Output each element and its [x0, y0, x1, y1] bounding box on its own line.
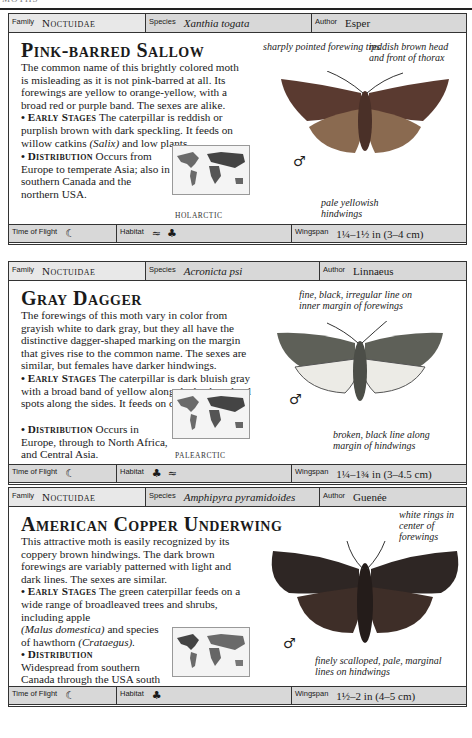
tree-icon: ♣	[152, 689, 162, 702]
running-head: MOTHS	[2, 0, 39, 4]
annotation-head-thorax: reddish brown head and front of thorax	[369, 41, 459, 63]
time-of-flight-label: Time of Flight	[12, 689, 57, 698]
species-cell: Species Xanthia togata	[146, 14, 312, 32]
author-cell: Author Guenée	[320, 488, 466, 506]
species-entry-american-copper-underwing: Family Noctuidae Species Amphipyra pyram…	[8, 487, 467, 707]
early-stages-italic-2: (Crataegus).	[78, 636, 135, 648]
species-description: The common name of this brightly colored…	[21, 61, 249, 149]
author-cell: Author Esper	[312, 14, 466, 32]
family-value: Noctuidae	[42, 491, 95, 503]
family-value: Noctuidae	[42, 265, 95, 277]
distribution-label: Distribution	[28, 648, 93, 660]
author-cell: Author Linnaeus	[320, 262, 466, 280]
annotation-hindwings: pale yellowish hindwings	[321, 197, 401, 219]
early-stages-label: Early Stages	[28, 585, 97, 597]
info-bar: Time of Flight ☾ Habitat ♣ Wingspan 1½–2…	[8, 686, 467, 705]
info-bar: Time of Flight ☾ Habitat ≈ ♣ Wingspan 1¼…	[8, 224, 467, 243]
species-title: Pink-barred Sallow	[21, 39, 204, 62]
family-label: Family	[12, 17, 34, 26]
species-label: Species	[149, 265, 176, 274]
habitat-cell: Habitat ♣ ≈	[117, 465, 292, 482]
family-label: Family	[12, 265, 34, 274]
tree-icon: ♣	[152, 467, 162, 480]
family-label: Family	[12, 491, 34, 500]
entry-body: Gray Dagger The forewings of this moth v…	[9, 281, 466, 465]
family-value: Noctuidae	[42, 17, 95, 29]
author-value: Linnaeus	[353, 265, 393, 277]
moon-icon: ☾	[65, 227, 75, 240]
tree-icon: ♣	[167, 227, 177, 240]
author-value: Guenée	[353, 491, 387, 503]
habitat-cell: Habitat ♣	[117, 687, 292, 704]
early-stages-label: Early Stages	[28, 372, 97, 384]
wingspan-value: 1¼–1¾ in (3–4.5 cm)	[336, 468, 431, 480]
male-symbol: ♂	[283, 635, 296, 651]
habitat-cell: Habitat ≈ ♣	[117, 225, 292, 242]
grassland-icon: ≈	[168, 467, 177, 480]
habitat-label: Habitat	[120, 689, 144, 698]
wingspan-label: Wingspan	[295, 227, 328, 236]
author-label: Author	[315, 17, 337, 26]
wingspan-cell: Wingspan 1¼–1½ in (3–4 cm)	[292, 225, 466, 242]
annotation-hindwing-line: broken, black line along margin of hindw…	[333, 429, 443, 451]
family-cell: Family Noctuidae	[9, 488, 146, 506]
species-title: Gray Dagger	[21, 287, 142, 310]
species-description: This attractive moth is easily recognize…	[21, 535, 253, 623]
wingspan-cell: Wingspan 1½–2 in (4–5 cm)	[292, 687, 466, 704]
early-stages-label: Early Stages	[28, 111, 97, 123]
annotation-forewing-line: fine, black, irregular line on inner mar…	[299, 289, 429, 311]
world-map-image	[172, 389, 250, 439]
world-map-image	[172, 627, 250, 677]
species-cell: Species Acronicta psi	[146, 262, 320, 280]
wetland-icon: ≈	[152, 227, 161, 240]
annotation-marginal-lines: finely scalloped, pale, marginal lines o…	[315, 655, 455, 677]
description-text: This attractive moth is easily recognize…	[21, 535, 231, 585]
author-label: Author	[323, 491, 345, 500]
early-stages-italic: (Malus domestica)	[21, 623, 105, 635]
taxonomy-bar: Family Noctuidae Species Xanthia togata …	[9, 14, 466, 33]
time-of-flight-cell: Time of Flight ☾	[9, 465, 117, 482]
male-symbol: ♂	[289, 391, 302, 407]
species-value: Amphipyra pyramidoides	[184, 491, 296, 503]
species-entry-gray-dagger: Family Noctuidae Species Acronicta psi A…	[8, 261, 467, 485]
habitat-label: Habitat	[120, 467, 144, 476]
annotation-forewing-tips: sharply pointed forewing tips	[263, 41, 380, 52]
male-symbol: ♂	[293, 153, 306, 169]
region-label: PALEARCTIC	[175, 451, 226, 460]
species-entry-pink-barred-sallow: Family Noctuidae Species Xanthia togata …	[8, 13, 467, 245]
family-cell: Family Noctuidae	[9, 262, 146, 280]
wingspan-value: 1½–2 in (4–5 cm)	[336, 690, 415, 702]
time-of-flight-label: Time of Flight	[12, 227, 57, 236]
page-header-rule: MOTHS	[0, 0, 472, 10]
description-text: The common name of this brightly colored…	[21, 61, 239, 111]
info-bar: Time of Flight ☾ Habitat ♣ ≈ Wingspan 1¼…	[8, 464, 467, 483]
wingspan-label: Wingspan	[295, 467, 328, 476]
time-of-flight-label: Time of Flight	[12, 467, 57, 476]
species-label: Species	[149, 17, 176, 26]
distribution-label: Distribution	[28, 150, 93, 162]
taxonomy-bar: Family Noctuidae Species Amphipyra pyram…	[9, 488, 466, 507]
annotation-white-rings: white rings in center of forewings	[399, 509, 459, 542]
distribution-block: • Distribution Occurs from Europe to tem…	[21, 150, 171, 200]
family-cell: Family Noctuidae	[9, 14, 146, 32]
moon-icon: ☾	[65, 467, 75, 480]
early-stages-italic: (Salix)	[89, 137, 119, 149]
species-label: Species	[149, 491, 176, 500]
author-value: Esper	[345, 17, 370, 29]
wingspan-cell: Wingspan 1¼–1¾ in (3–4.5 cm)	[292, 465, 466, 482]
species-title: American Copper Underwing	[21, 513, 282, 536]
description-text: The forewings of this moth vary in color…	[21, 309, 246, 371]
moth-illustration-pink-barred-sallow	[277, 71, 453, 161]
entry-body: Pink-barred Sallow The common name of th…	[9, 33, 466, 225]
moon-icon: ☾	[65, 689, 75, 702]
world-map-image	[172, 145, 250, 195]
wingspan-label: Wingspan	[295, 689, 328, 698]
wingspan-value: 1¼–1½ in (3–4 cm)	[336, 228, 423, 240]
moth-illustration-american-copper-underwing	[267, 541, 463, 651]
region-label: HOLARCTIC	[175, 211, 222, 220]
distribution-label: Distribution	[28, 423, 93, 435]
time-of-flight-cell: Time of Flight ☾	[9, 687, 117, 704]
time-of-flight-cell: Time of Flight ☾	[9, 225, 117, 242]
species-value: Acronicta psi	[184, 265, 243, 277]
habitat-label: Habitat	[120, 227, 144, 236]
